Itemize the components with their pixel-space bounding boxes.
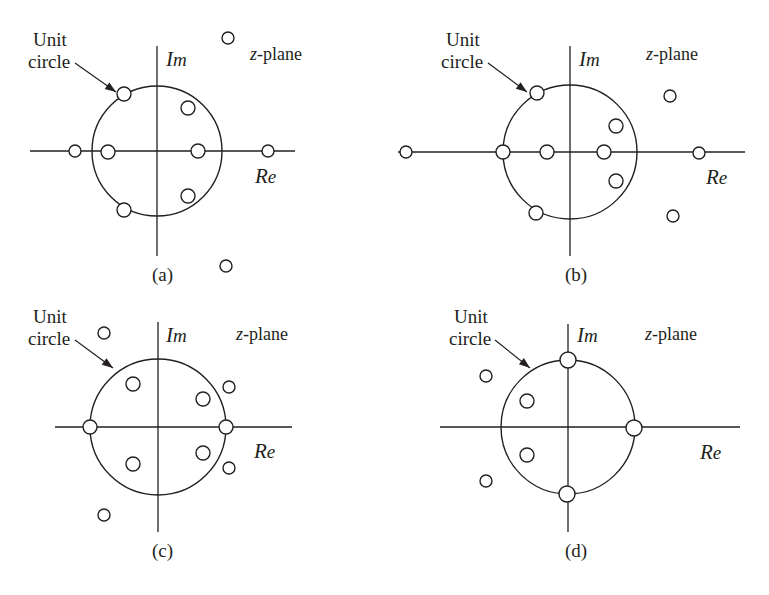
figure-background xyxy=(0,0,769,595)
pole-inside-right-real-a xyxy=(191,144,205,158)
imaginary-axis-label-b: Im xyxy=(578,47,600,71)
real-axis-label-b: Re xyxy=(705,165,727,189)
unit-circle-label-line2-a: circle xyxy=(28,51,70,72)
pole-outside-upper-right-b xyxy=(664,90,676,102)
panel-caption-c: (c) xyxy=(152,540,173,562)
pole-outside-lower-left-d xyxy=(480,475,492,487)
pole-inside-upper-left-c xyxy=(126,377,140,391)
panel-caption-d: (d) xyxy=(565,540,587,562)
unit-circle-label-line1-b: Unit xyxy=(446,29,481,50)
pole-outside-upper-left-d xyxy=(480,370,492,382)
pole-on-circle-top-d xyxy=(560,352,576,368)
unit-circle-label-line2-d: circle xyxy=(449,328,491,349)
z-plane-label-c: z-plane xyxy=(235,324,288,344)
pole-outside-top-a xyxy=(222,32,234,44)
pole-on-circle-left-real-b xyxy=(496,145,510,159)
pole-on-circle-right-real-d xyxy=(626,420,642,436)
pole-outside-upper-right-c xyxy=(223,381,235,393)
z-plane-label-a: z-plane xyxy=(249,44,302,64)
unit-circle-label-line1-c: Unit xyxy=(33,306,68,327)
unit-circle-label-line2-b: circle xyxy=(441,51,483,72)
pole-outside-lower-right-b xyxy=(667,210,679,222)
pole-on-circle-upper-left-b xyxy=(530,86,544,100)
pole-inside-lower-left-d xyxy=(520,448,534,462)
pole-on-circle-left-real-c xyxy=(83,420,97,434)
panel-caption-a: (a) xyxy=(152,264,173,286)
pole-inside-lower-right-b xyxy=(609,174,623,188)
pole-on-circle-bottom-d xyxy=(559,486,575,502)
imaginary-axis-label-d: Im xyxy=(576,323,598,347)
pole-on-circle-upper-left-a xyxy=(117,87,131,101)
unit-circle-label-line2-c: circle xyxy=(28,328,70,349)
pole-outside-left-real-b xyxy=(400,146,412,158)
pole-inside-upper-right-b xyxy=(609,119,623,133)
z-plane-label-b: z-plane xyxy=(645,44,698,64)
pole-outside-lower-right-c xyxy=(223,462,235,474)
pole-on-circle-left-real-a xyxy=(101,145,115,159)
pole-inside-right-real-b xyxy=(597,145,611,159)
imaginary-axis-label-a: Im xyxy=(165,47,187,71)
panel-caption-b: (b) xyxy=(565,264,587,286)
zplane-figure-root: UnitcircleImRez-plane(a)UnitcircleImRez-… xyxy=(0,0,769,595)
pole-inside-upper-right-a xyxy=(181,101,195,115)
pole-zero-plot-canvas: UnitcircleImRez-plane(a)UnitcircleImRez-… xyxy=(0,0,769,595)
pole-on-circle-lower-left-b xyxy=(529,206,543,220)
pole-inside-upper-left-d xyxy=(520,394,534,408)
pole-inside-lower-right-a xyxy=(181,189,195,203)
pole-inside-lower-right-c xyxy=(196,446,210,460)
real-axis-label-d: Re xyxy=(699,440,721,464)
pole-inside-lower-left-c xyxy=(126,457,140,471)
pole-outside-upper-left-c xyxy=(98,327,110,339)
unit-circle-label-line1-d: Unit xyxy=(454,306,489,327)
real-axis-label-c: Re xyxy=(253,439,275,463)
z-plane-label-d: z-plane xyxy=(644,324,697,344)
real-axis-label-a: Re xyxy=(254,164,276,188)
pole-inside-left-real-b xyxy=(540,145,554,159)
pole-outside-bottom-a xyxy=(220,260,232,272)
pole-outside-left-real-a xyxy=(69,145,81,157)
unit-circle-label-line1-a: Unit xyxy=(33,29,68,50)
pole-on-circle-lower-left-a xyxy=(117,203,131,217)
pole-outside-lower-left-c xyxy=(98,509,110,521)
pole-outside-right-real-b xyxy=(693,147,705,159)
pole-inside-upper-right-c xyxy=(196,392,210,406)
pole-outside-right-real-a xyxy=(262,145,274,157)
imaginary-axis-label-c: Im xyxy=(165,323,187,347)
pole-on-circle-right-real-c xyxy=(219,420,233,434)
